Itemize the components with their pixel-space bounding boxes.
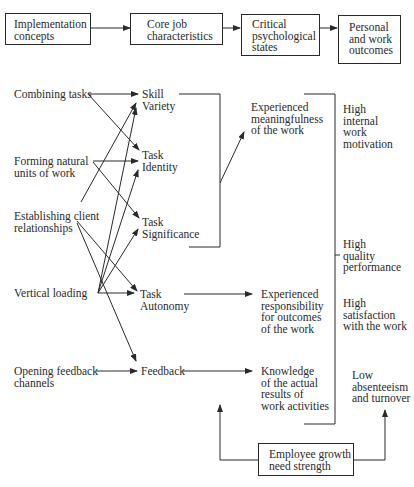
employee-growth-need-strength-label: Employee growth need strength bbox=[269, 449, 353, 472]
concept-forming-natural-units: Forming natural units of work bbox=[14, 156, 88, 179]
state-experienced-responsibility: Experienced responsibility for outcomes … bbox=[261, 289, 324, 335]
box-core-job-characteristics: Core job characteristics bbox=[130, 13, 223, 45]
outcome-high-quality-performance: High quality performance bbox=[343, 239, 401, 274]
box-employee-growth-need-strength: Employee growth need strength bbox=[258, 443, 354, 476]
core-task-identity: Task Identity bbox=[142, 150, 178, 173]
concept-combining-tasks: Combining tasks bbox=[14, 89, 92, 101]
box-implementation-concepts: Implementation concepts bbox=[5, 13, 91, 45]
concept-vertical-loading: Vertical loading bbox=[14, 288, 87, 300]
core-task-significance: Task Significance bbox=[142, 217, 199, 240]
box-personal-work-outcomes: Personal and work outcomes bbox=[338, 15, 401, 64]
state-knowledge-of-results: Knowledge of the actual results of work … bbox=[261, 366, 329, 412]
state-experienced-meaningfulness: Experienced meaningfulness of the work bbox=[251, 102, 323, 137]
concept-establishing-client-relationships: Establishing client relationships bbox=[14, 211, 99, 234]
outcome-high-satisfaction: High satisfaction with the work bbox=[343, 298, 407, 333]
box-critical-psychological-states: Critical psychological states bbox=[241, 14, 320, 56]
core-skill-variety: Skill Variety bbox=[142, 89, 175, 112]
core-feedback: Feedback bbox=[141, 366, 185, 378]
core-task-autonomy: Task Autonomy bbox=[140, 289, 189, 312]
critical-psychological-states-label: Critical psychological states bbox=[252, 19, 319, 54]
personal-work-outcomes-label: Personal and work outcomes bbox=[349, 22, 400, 57]
concept-opening-feedback-channels: Opening feedback channels bbox=[14, 366, 98, 389]
outcome-low-absenteeism-turnover: Low absenteeism and turnover bbox=[352, 370, 410, 405]
core-job-characteristics-label: Core job characteristics bbox=[147, 19, 222, 42]
outcome-high-internal-work-motivation: High internal work motivation bbox=[343, 104, 393, 150]
implementation-concepts-label: Implementation concepts bbox=[14, 19, 90, 42]
